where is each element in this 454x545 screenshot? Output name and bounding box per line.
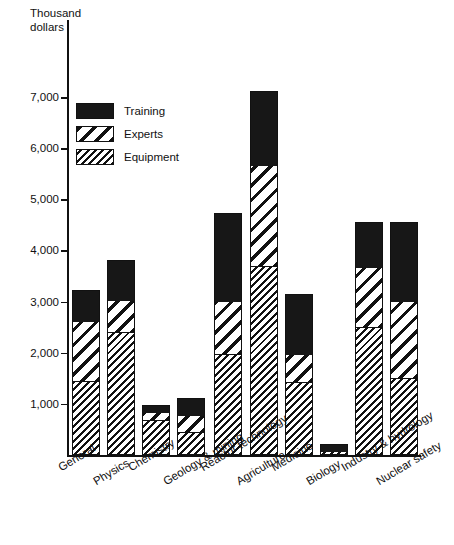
x-label-biology: Biology (304, 458, 343, 488)
y-tick-mark (61, 404, 68, 406)
segment-training (143, 406, 169, 413)
segment-equipment (73, 382, 99, 454)
y-tick-label: 1,000 (30, 398, 59, 410)
bar-industry-hydrology[interactable] (355, 222, 383, 455)
segment-training (391, 223, 417, 302)
y-tick-mark (61, 353, 68, 355)
legend-item-experts: Experts (76, 124, 179, 144)
legend-label-training: Training (124, 105, 165, 117)
plot-area (68, 20, 420, 455)
segment-experts (215, 302, 241, 355)
y-tick-label: 5,000 (30, 193, 59, 205)
segment-equipment (356, 328, 382, 454)
segment-experts (356, 268, 382, 328)
y-tick-label: 2,000 (30, 347, 59, 359)
y-tick-mark (61, 148, 68, 150)
legend-swatch-training-icon (76, 103, 114, 119)
chart-legend: Training Experts Equipment (76, 101, 179, 170)
legend-swatch-experts-icon (76, 126, 114, 142)
y-tick-mark (61, 97, 68, 99)
y-tick-mark (61, 250, 68, 252)
bar-general[interactable] (72, 290, 100, 455)
segment-equipment (321, 452, 347, 455)
bar-medicine[interactable] (285, 294, 313, 455)
segment-training (108, 261, 134, 301)
bar-biology[interactable] (320, 444, 348, 455)
segment-training (73, 291, 99, 321)
y-tick-label: 6,000 (30, 142, 59, 154)
bar-agriculture[interactable] (250, 91, 278, 455)
x-label-physics: Physics (91, 457, 131, 488)
y-tick-label: 7,000 (30, 91, 59, 103)
segment-experts (73, 322, 99, 382)
legend-swatch-equipment-icon (76, 149, 114, 165)
segment-experts (286, 355, 312, 383)
bar-reactor-technology[interactable] (214, 213, 242, 455)
y-tick-label: 4,000 (30, 244, 59, 256)
segment-training (286, 295, 312, 355)
y-tick-mark (61, 302, 68, 304)
segment-experts (143, 413, 169, 421)
legend-label-equipment: Equipment (124, 151, 179, 163)
y-tick-mark (61, 199, 68, 201)
segment-training (215, 214, 241, 302)
x-axis-labels: GeneralPhysicsChemistryGeology & miningR… (0, 455, 454, 545)
segment-training (356, 223, 382, 269)
segment-experts (391, 302, 417, 380)
legend-item-training: Training (76, 101, 179, 121)
segment-experts (178, 416, 204, 433)
segment-equipment (108, 333, 134, 454)
chart-container: Thousand dollars 1,0002,0003,0004,0005,0… (0, 0, 454, 545)
segment-experts (251, 166, 277, 267)
y-tick-label: 3,000 (30, 296, 59, 308)
bar-geology-mining[interactable] (177, 398, 205, 455)
segment-training (251, 92, 277, 166)
segment-experts (108, 301, 134, 332)
legend-label-experts: Experts (124, 128, 163, 140)
bar-physics[interactable] (107, 260, 135, 455)
legend-item-equipment: Equipment (76, 147, 179, 167)
segment-equipment (178, 433, 204, 454)
segment-training (178, 399, 204, 416)
